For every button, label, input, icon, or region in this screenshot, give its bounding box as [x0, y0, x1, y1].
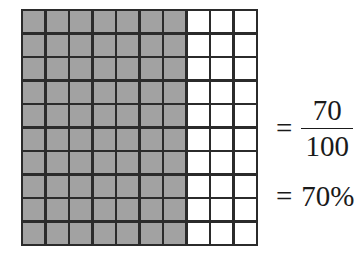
- grid-cell: [23, 35, 44, 56]
- grid-cell: [188, 82, 209, 103]
- grid-cell: [164, 58, 185, 79]
- grid-cell: [141, 176, 162, 197]
- grid-cell: [235, 58, 256, 79]
- grid-cell: [188, 176, 209, 197]
- grid-cell: [164, 82, 185, 103]
- grid-cell: [47, 152, 68, 173]
- percent-grid-figure: = 70 100 = 70%: [0, 0, 364, 257]
- grid-cell: [94, 35, 115, 56]
- grid-cell: [23, 129, 44, 150]
- grid-cell: [23, 11, 44, 32]
- grid-cell: [70, 105, 91, 126]
- grid-cell: [211, 105, 232, 126]
- grid-cell: [47, 105, 68, 126]
- grid-cell: [188, 152, 209, 173]
- grid-cell: [23, 82, 44, 103]
- grid-cell: [94, 199, 115, 220]
- grid-cell: [47, 58, 68, 79]
- grid-cell: [117, 223, 138, 244]
- hundred-grid-container: [21, 9, 258, 246]
- grid-cell: [94, 152, 115, 173]
- grid-cell: [70, 82, 91, 103]
- grid-cell: [117, 35, 138, 56]
- grid-cell: [235, 82, 256, 103]
- grid-cell: [47, 82, 68, 103]
- grid-cell: [235, 105, 256, 126]
- grid-cell: [211, 129, 232, 150]
- grid-cell: [141, 223, 162, 244]
- grid-cell: [70, 152, 91, 173]
- grid-cell: [211, 152, 232, 173]
- grid-cell: [211, 11, 232, 32]
- grid-cell: [164, 105, 185, 126]
- grid-cell: [235, 11, 256, 32]
- grid-cell: [164, 199, 185, 220]
- percent-value: 70%: [301, 182, 354, 211]
- equals-sign-percent: =: [276, 182, 292, 211]
- grid-cell: [117, 58, 138, 79]
- fraction-equation: = 70 100: [276, 96, 353, 162]
- grid-cell: [70, 11, 91, 32]
- grid-cell: [164, 11, 185, 32]
- percent-equation: = 70%: [276, 182, 355, 211]
- grid-cell: [47, 223, 68, 244]
- grid-cell: [235, 223, 256, 244]
- grid-cell: [188, 58, 209, 79]
- grid-cell: [211, 58, 232, 79]
- grid-cell: [211, 82, 232, 103]
- grid-cell: [94, 223, 115, 244]
- math-expressions: = 70 100 = 70%: [268, 0, 364, 257]
- grid-cell: [94, 11, 115, 32]
- grid-cell: [211, 223, 232, 244]
- fraction-numerator: 70: [311, 96, 344, 128]
- grid-cell: [141, 129, 162, 150]
- grid-cell: [23, 176, 44, 197]
- grid-cell: [23, 58, 44, 79]
- grid-cell: [211, 199, 232, 220]
- grid-cell: [235, 199, 256, 220]
- grid-cell: [211, 35, 232, 56]
- hundred-grid: [21, 9, 258, 246]
- equals-sign-fraction: =: [276, 114, 292, 143]
- grid-cell: [23, 199, 44, 220]
- grid-cell: [235, 176, 256, 197]
- grid-cell: [141, 82, 162, 103]
- grid-cell: [235, 35, 256, 56]
- grid-cell: [164, 223, 185, 244]
- grid-cell: [94, 176, 115, 197]
- grid-cell: [141, 35, 162, 56]
- grid-cell: [188, 199, 209, 220]
- grid-cell: [117, 82, 138, 103]
- grid-cell: [47, 35, 68, 56]
- grid-cell: [141, 199, 162, 220]
- grid-cell: [164, 129, 185, 150]
- grid-cell: [164, 152, 185, 173]
- grid-cell: [188, 223, 209, 244]
- grid-cell: [117, 176, 138, 197]
- grid-cell: [47, 176, 68, 197]
- grid-cell: [141, 105, 162, 126]
- grid-cell: [47, 199, 68, 220]
- fraction-denominator: 100: [304, 129, 352, 162]
- grid-cell: [70, 35, 91, 56]
- grid-cell: [141, 11, 162, 32]
- grid-cell: [47, 11, 68, 32]
- grid-cell: [94, 129, 115, 150]
- fraction: 70 100: [301, 96, 353, 162]
- grid-cell: [235, 152, 256, 173]
- grid-cell: [164, 176, 185, 197]
- grid-cell: [70, 129, 91, 150]
- grid-cell: [94, 105, 115, 126]
- grid-cell: [141, 152, 162, 173]
- grid-cell: [70, 176, 91, 197]
- grid-cell: [164, 35, 185, 56]
- grid-cell: [188, 129, 209, 150]
- grid-cell: [188, 105, 209, 126]
- grid-cell: [117, 105, 138, 126]
- grid-cell: [23, 105, 44, 126]
- grid-cell: [70, 58, 91, 79]
- grid-cell: [117, 129, 138, 150]
- grid-cell: [117, 11, 138, 32]
- grid-cell: [70, 199, 91, 220]
- grid-cell: [70, 223, 91, 244]
